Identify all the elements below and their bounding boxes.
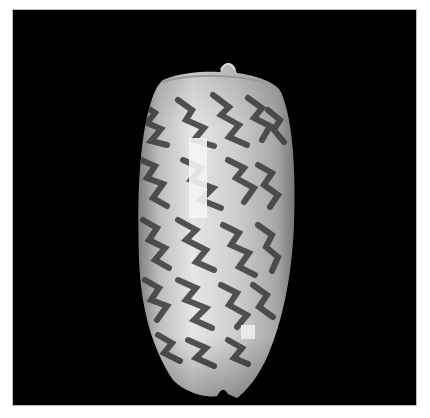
shell-body: [133, 60, 303, 405]
photo-frame: [13, 10, 416, 405]
olive-shell-image: [13, 10, 416, 405]
